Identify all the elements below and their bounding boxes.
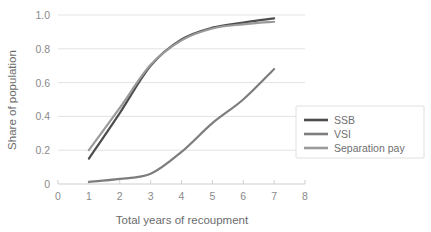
chart-container: 00.20.40.60.81.0 012345678 Total years o…: [0, 0, 431, 232]
y-tick-label: 0.2: [35, 144, 50, 156]
series-line-vsi: [89, 69, 274, 182]
y-axis-title: Share of population: [6, 50, 18, 150]
x-tick-labels: 012345678: [55, 190, 308, 202]
x-tick-label: 2: [117, 190, 123, 202]
x-tick-label: 8: [302, 190, 308, 202]
y-tick-labels: 00.20.40.60.81.0: [35, 9, 50, 190]
series-line-separation-pay: [89, 22, 274, 150]
legend-label-separation-pay: Separation pay: [334, 142, 405, 154]
y-tick-label: 0.4: [35, 110, 50, 122]
gridlines: [58, 15, 305, 150]
legend-label-vsi: VSI: [334, 128, 351, 140]
x-tick-label: 4: [179, 190, 185, 202]
x-tick-label: 5: [209, 190, 215, 202]
line-chart: 00.20.40.60.81.0 012345678 Total years o…: [0, 0, 431, 232]
x-axis-title: Total years of recoupment: [116, 214, 249, 226]
legend: SSBVSISeparation pay: [296, 106, 424, 158]
x-tick-label: 0: [55, 190, 61, 202]
x-tick-label: 7: [271, 190, 277, 202]
y-tick-label: 1.0: [35, 9, 50, 21]
data-series: [89, 18, 274, 182]
y-tick-label: 0: [44, 178, 50, 190]
y-tick-label: 0.8: [35, 43, 50, 55]
x-tick-label: 6: [240, 190, 246, 202]
legend-label-ssb: SSB: [334, 114, 355, 126]
x-tick-label: 3: [148, 190, 154, 202]
y-tick-label: 0.6: [35, 77, 50, 89]
x-tick-label: 1: [86, 190, 92, 202]
